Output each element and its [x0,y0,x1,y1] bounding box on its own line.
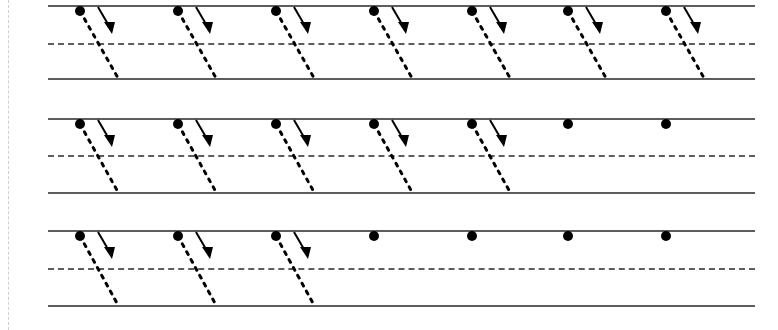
dotted-slant-stroke [472,11,510,78]
stroke-guide-marks [562,3,652,82]
dotted-slant-stroke [80,236,118,305]
start-dot [173,119,183,129]
stroke-guide-marks [466,116,556,196]
start-dot [563,6,573,16]
arrow-head-icon [202,135,213,147]
start-dot [369,119,379,129]
arrow-head-icon [104,247,115,259]
arrow-head-icon [496,22,507,34]
start-dot [75,119,85,129]
start-dot [369,6,379,16]
stroke-guide-marks [74,3,164,82]
start-dot [369,231,379,241]
stroke-guide-marks [466,3,556,82]
arrow-head-icon [690,22,701,34]
arrow-head-icon [202,247,213,259]
dotted-slant-stroke [374,11,412,78]
stroke-guide-marks [172,116,262,196]
start-dot [563,231,573,241]
arrow-head-icon [202,22,213,34]
start-dot [467,6,477,16]
stroke-guide-marks [74,116,164,196]
arrow-head-icon [104,135,115,147]
arrow-head-icon [300,135,311,147]
stroke-guide-marks [368,3,458,82]
dotted-slant-stroke [276,236,314,305]
dotted-slant-stroke [178,236,216,305]
dotted-slant-stroke [178,124,216,192]
start-dot [75,231,85,241]
left-margin-rule [8,0,9,330]
dotted-slant-stroke [472,124,510,192]
stroke-guide-marks [368,116,458,196]
stroke-guide-marks [74,228,164,309]
dotted-slant-stroke [374,124,412,192]
dotted-slant-stroke [80,124,118,192]
arrow-head-icon [496,135,507,147]
start-dot [661,119,671,129]
arrow-head-icon [104,22,115,34]
dotted-slant-stroke [276,124,314,192]
dotted-slant-stroke [178,11,216,78]
handwriting-worksheet [0,0,778,330]
dotted-slant-stroke [276,11,314,78]
arrow-head-icon [300,22,311,34]
stroke-guide-marks [172,3,262,82]
start-dot [271,6,281,16]
arrow-head-icon [398,22,409,34]
stroke-guide-marks [270,3,360,82]
stroke-guide-marks [172,228,262,309]
stroke-guide-marks [270,116,360,196]
start-dot [271,231,281,241]
start-dot [563,119,573,129]
start-dot [75,6,85,16]
stroke-guide-marks [660,3,750,82]
arrow-head-icon [300,247,311,259]
dotted-slant-stroke [80,11,118,78]
start-dot [467,231,477,241]
start-dot [661,6,671,16]
start-dot [467,119,477,129]
arrow-head-icon [592,22,603,34]
dotted-slant-stroke [666,11,704,78]
start-dot [173,6,183,16]
arrow-head-icon [398,135,409,147]
start-dot [173,231,183,241]
start-dot [271,119,281,129]
stroke-guide-marks [270,228,360,309]
dotted-slant-stroke [568,11,606,78]
start-dot [661,231,671,241]
